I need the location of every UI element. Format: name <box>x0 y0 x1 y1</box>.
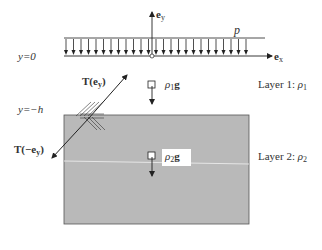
interface-label: y=−h <box>18 104 43 115</box>
layer-2-name: Layer 2: <box>258 150 298 162</box>
ey-label: ey <box>156 9 165 22</box>
element-1-box <box>148 81 155 88</box>
traction-upper-prefix: T(e <box>82 75 98 87</box>
ex-label: ex <box>274 51 283 64</box>
traction-lower-suffix: ) <box>40 143 44 155</box>
surface-label: y=0 <box>18 51 36 62</box>
layer-1-density-sub: 1 <box>303 83 307 92</box>
diagram-canvas <box>0 0 322 250</box>
g1-vector: g <box>174 78 180 90</box>
element-2-box <box>148 152 155 159</box>
traction-lower-label: T(−ey) <box>14 144 44 157</box>
layer-1-label: Layer 1: ρ1 <box>258 79 307 92</box>
traction-lower-prefix: T(−e <box>14 143 36 155</box>
g2-vector: g <box>174 150 180 162</box>
layer-1-name: Layer 1: <box>258 78 298 90</box>
layer-2-density-sub: 2 <box>303 155 307 164</box>
pressure-label: p <box>234 24 240 36</box>
ey-label-sub: y <box>161 13 165 22</box>
layer-2-region <box>64 115 249 224</box>
rho2g-label: ρ2g <box>165 151 180 164</box>
traction-upper-suffix: ) <box>102 75 106 87</box>
origin-circle <box>150 54 154 58</box>
layer-2-label: Layer 2: ρ2 <box>258 151 307 164</box>
rho1g-label: ρ1g <box>165 79 180 92</box>
pressure-arrows <box>64 39 248 55</box>
ex-label-sub: x <box>279 55 283 64</box>
traction-upper-label: T(ey) <box>82 76 106 89</box>
